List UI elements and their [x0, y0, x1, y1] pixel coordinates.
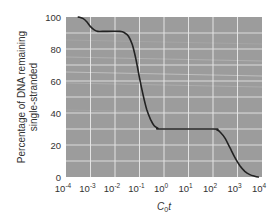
y-axis-label-line2: single-stranded — [28, 63, 39, 131]
x-tick-label: 10-1 — [128, 182, 145, 194]
y-tick-label: 20 — [50, 140, 61, 151]
y-tick-label: 100 — [45, 12, 61, 23]
y-axis-ticks: 020406080100 — [45, 12, 61, 183]
x-tick-label: 10-2 — [104, 182, 121, 194]
y-tick-label: 80 — [50, 44, 61, 55]
plot-area — [66, 17, 262, 177]
x-axis-label-tail: t — [168, 201, 172, 212]
reassociation-chart: 020406080100 10-410-310-210-110010110210… — [0, 0, 280, 220]
x-axis-ticks: 10-410-310-210-1100101102103104 — [55, 182, 267, 194]
x-tick-label: 103 — [227, 182, 242, 194]
x-tick-label: 100 — [154, 182, 169, 194]
x-axis-label: C0t — [157, 201, 172, 213]
x-tick-label: 102 — [203, 182, 218, 194]
x-tick-label: 10-3 — [79, 182, 96, 194]
y-tick-label: 40 — [50, 108, 61, 119]
x-tick-label: 104 — [252, 182, 267, 194]
y-tick-label: 0 — [56, 172, 61, 183]
y-axis-label-line1: Percentage of DNA remaining — [16, 31, 27, 163]
x-tick-label: 10-4 — [55, 182, 72, 194]
y-tick-label: 60 — [50, 76, 61, 87]
x-tick-label: 101 — [178, 182, 193, 194]
